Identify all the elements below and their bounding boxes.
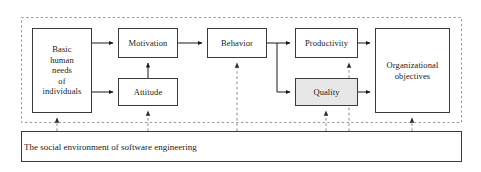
node-label: Motivation xyxy=(119,38,177,49)
node-label: Organizational objectives xyxy=(376,60,449,81)
node-quality[interactable]: Quality xyxy=(295,78,358,106)
node-label: The social environment of software engin… xyxy=(22,142,461,152)
node-label: Basic human needs of individuals xyxy=(33,44,91,97)
node-label: Productivity xyxy=(296,38,357,49)
node-motivation[interactable]: Motivation xyxy=(118,28,178,58)
node-organizational-objectives[interactable]: Organizational objectives xyxy=(375,28,450,113)
node-productivity[interactable]: Productivity xyxy=(295,28,358,58)
node-behavior[interactable]: Behavior xyxy=(207,28,267,58)
node-label: Behavior xyxy=(208,38,266,49)
node-attitude[interactable]: Attitude xyxy=(118,78,178,106)
node-label: Attitude xyxy=(119,87,177,98)
node-social-environment[interactable]: The social environment of software engin… xyxy=(21,131,462,162)
diagram-canvas: Basic human needs of individuals Motivat… xyxy=(0,0,481,172)
node-label: Quality xyxy=(296,87,357,98)
edge-behavior-to-quality xyxy=(277,43,290,92)
node-basic-human-needs[interactable]: Basic human needs of individuals xyxy=(32,28,92,113)
